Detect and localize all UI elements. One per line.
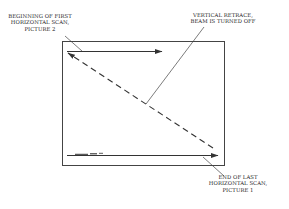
label-end-last-scan: END OF LAST HORIZONTAL SCAN, PICTURE 1: [200, 174, 276, 193]
label-vertical-retrace: VERTICAL RETRACE, BEAM IS TURNED OFF: [173, 12, 273, 25]
leader-line-beginning: [65, 36, 82, 51]
leader-line-retrace: [146, 27, 204, 104]
label-line: HORIZONTAL SCAN,: [2, 19, 78, 25]
label-line: PICTURE 1: [200, 187, 276, 193]
label-line: BEAM IS TURNED OFF: [173, 18, 273, 24]
label-beginning-first-scan: BEGINNING OF FIRST HORIZONTAL SCAN, PICT…: [2, 13, 78, 32]
screen-frame: [63, 42, 225, 166]
vertical-retrace-dashed-arrow: [68, 53, 213, 148]
label-line: PICTURE 2: [2, 26, 78, 32]
label-line: HORIZONTAL SCAN,: [200, 180, 276, 186]
